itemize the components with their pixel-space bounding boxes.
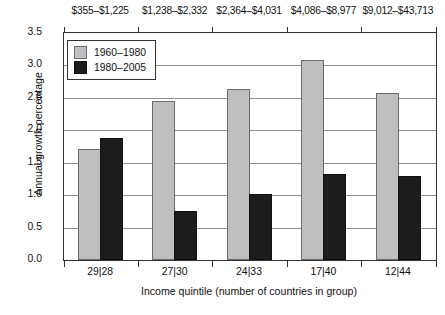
bar [376, 93, 399, 260]
x-axis-label: 27|30 [137, 266, 211, 277]
y-axis-tick-label: 2.0 [16, 124, 42, 134]
legend-label: 1980–2005 [94, 62, 146, 73]
x-axis-label: 29|28 [63, 266, 137, 277]
x-axis-label: 24|33 [212, 266, 286, 277]
bar [227, 89, 250, 260]
x-axis-tickmark [436, 261, 437, 267]
top-axis-label: $2,364–$4,031 [212, 5, 286, 21]
top-axis-label: $1,238–$2,332 [137, 5, 211, 21]
bar [398, 176, 421, 260]
bar [249, 194, 272, 260]
x-axis-label: 17|40 [286, 266, 360, 277]
y-axis-tick-label: 0.0 [16, 254, 42, 264]
y-axis-tick-labels: 0.00.51.01.52.02.53.03.5 [16, 25, 42, 265]
y-axis-tick-label: 1.5 [16, 157, 42, 167]
top-axis-labels: $355–$1,225$1,238–$2,332$2,364–$4,031$4,… [63, 5, 435, 21]
bar [78, 149, 101, 260]
y-axis-tick-label: 3.0 [16, 59, 42, 69]
bar [100, 138, 123, 260]
bar [152, 101, 175, 260]
legend-item: 1960–1980 [74, 45, 146, 60]
y-axis-tick-label: 3.5 [16, 27, 42, 37]
x-axis-title: Income quintile (number of countries in … [63, 285, 435, 297]
legend-swatch [74, 46, 87, 59]
x-axis-label: 12|44 [361, 266, 435, 277]
bar [174, 211, 197, 260]
top-axis-label: $9,012–$43,713 [361, 5, 435, 21]
legend-label: 1960–1980 [94, 47, 146, 58]
y-axis-tick-label: 2.5 [16, 92, 42, 102]
legend: 1960–19801980–2005 [67, 40, 156, 80]
bar [323, 174, 346, 260]
top-axis-label: $355–$1,225 [63, 5, 137, 21]
bar-group [362, 33, 436, 260]
y-axis-tick-label: 1.0 [16, 189, 42, 199]
bar-group [213, 33, 287, 260]
x-axis-tick-labels: 29|2827|3024|3317|4012|44 [63, 266, 435, 277]
y-axis-tick-label: 0.5 [16, 222, 42, 232]
top-axis-label: $4,086–$8,977 [286, 5, 360, 21]
legend-swatch [74, 61, 87, 74]
bar-chart-figure: $355–$1,225$1,238–$2,332$2,364–$4,031$4,… [0, 0, 445, 315]
bar-group [287, 33, 361, 260]
bar [301, 60, 324, 260]
legend-item: 1980–2005 [74, 60, 146, 75]
